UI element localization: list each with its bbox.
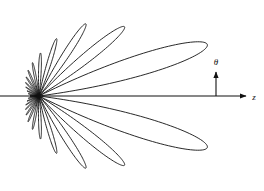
pattern-plot-svg: z θ <box>0 0 264 191</box>
theta-axis-label: θ <box>214 57 219 67</box>
lobe-side-lobe-4-lower <box>38 96 41 139</box>
lobe-main-lobe-upper <box>39 42 207 96</box>
lobe-side-lobe-4-upper <box>38 53 41 96</box>
lobe-main-lobe-lower <box>39 96 207 150</box>
radiation-pattern-figure: z θ <box>0 0 264 191</box>
z-axis-label: z <box>251 92 256 102</box>
